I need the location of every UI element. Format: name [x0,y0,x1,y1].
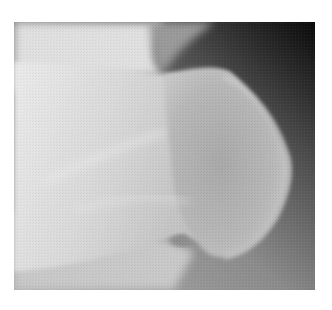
xray-graphic [14,22,315,290]
xray-image: Grayscale X-ray of a bone end (rounded a… [14,22,315,290]
